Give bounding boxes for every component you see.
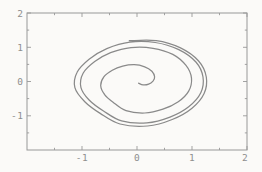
phase-plot-svg: -1012 210-1 xyxy=(0,0,262,172)
x-tick-label: 0 xyxy=(134,152,140,163)
x-tick-labels: -1012 xyxy=(76,152,248,163)
y-tick-label: 2 xyxy=(17,8,23,19)
phase-portrait-figure: -1012 210-1 xyxy=(0,0,262,172)
trajectory-path xyxy=(74,40,206,126)
x-tick-label: 1 xyxy=(189,152,195,163)
y-tick-labels: 210-1 xyxy=(11,8,23,122)
x-ticks xyxy=(55,13,248,150)
y-ticks xyxy=(27,13,247,133)
y-tick-label: 1 xyxy=(17,42,23,53)
x-tick-label: -1 xyxy=(76,152,88,163)
y-tick-label: -1 xyxy=(11,110,23,121)
plot-frame xyxy=(27,13,247,150)
x-tick-label: 2 xyxy=(242,152,248,163)
y-tick-label: 0 xyxy=(17,76,23,87)
